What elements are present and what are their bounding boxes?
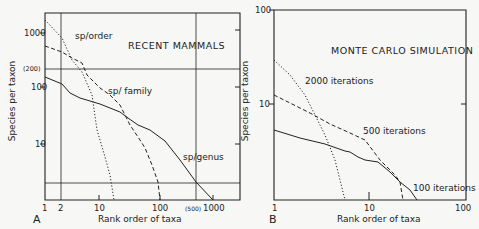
label-2000-iterations: 2000 iterations [305, 76, 373, 86]
xtick-2: 2 [58, 203, 63, 213]
label-sp-order: sp/order [75, 31, 112, 41]
b-xtick-100: 100 [455, 203, 471, 213]
label-100-iterations: 100 iterations [413, 183, 476, 193]
label-sp-genus: sp/genus [183, 152, 224, 162]
panel-b-letter: B [269, 213, 277, 226]
label-500-iterations: 500 iterations [363, 126, 426, 136]
panel-b-ylabel: Species per taxon [240, 61, 250, 142]
series-100-iterations [274, 130, 417, 200]
panel-b-title: MONTE CARLO SIMULATION [331, 45, 473, 56]
ytick-100: 100 [31, 82, 47, 92]
xtick-1000: 1000 [203, 203, 225, 213]
label-sp-family: sp/ family [108, 86, 152, 96]
series-sp-order [45, 20, 114, 200]
ytick-1000: 1000 [24, 28, 46, 38]
xtick-100: 100 [152, 203, 168, 213]
panel-b [269, 10, 466, 200]
ytick-10: 10 [35, 139, 46, 149]
panel-b-xlabel: Rank order of taxa [337, 214, 421, 224]
b-xtick-10: 10 [364, 203, 375, 213]
xtick-500: (500) [185, 205, 201, 212]
panel-b-frame [274, 10, 466, 200]
panel-a-title: RECENT MAMMALS [128, 40, 225, 51]
b-ytick-10: 10 [259, 99, 270, 109]
panel-a-ylabel: Species per taxon [7, 61, 17, 142]
b-xtick-1: 1 [272, 203, 277, 213]
xtick-1: 1 [42, 203, 47, 213]
panel-a-xlabel: Rank order of taxa [98, 214, 182, 224]
b-ytick-100: 100 [255, 5, 271, 15]
panel-a-letter: A [33, 213, 41, 226]
series-500-iterations [274, 95, 403, 200]
ytick-200: (200) [23, 65, 40, 73]
xtick-10: 10 [94, 203, 105, 213]
